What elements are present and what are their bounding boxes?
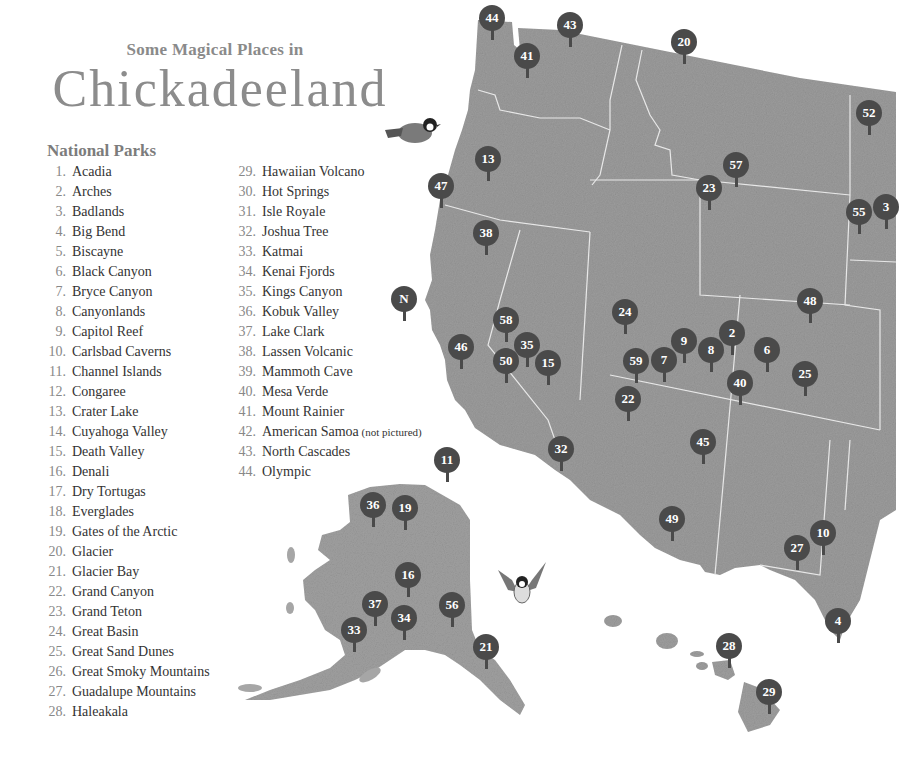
park-marker[interactable]: 32 (548, 436, 574, 462)
park-marker[interactable]: 37 (362, 591, 388, 617)
park-marker-label: 50 (500, 353, 513, 368)
legend-item: 2.Arches (40, 182, 210, 202)
legend-item-name: Kobuk Valley (262, 304, 339, 319)
map-subtitle: Some Magical Places in (30, 40, 400, 60)
compass-north-marker[interactable]: N (391, 286, 417, 312)
park-marker[interactable]: 23 (696, 175, 722, 201)
park-marker[interactable]: 25 (792, 361, 818, 387)
map-pin-stem-icon (403, 629, 406, 640)
legend-item: 5.Biscayne (40, 242, 210, 262)
legend-item-number: 4. (40, 222, 66, 242)
legend-column-2: 29.Hawaiian Volcano30.Hot Springs31.Isle… (230, 162, 422, 482)
park-marker[interactable]: 21 (473, 634, 499, 660)
park-marker[interactable]: 11 (434, 447, 460, 473)
park-marker[interactable]: 2 (719, 320, 745, 346)
park-marker[interactable]: 45 (690, 429, 716, 455)
park-marker[interactable]: 34 (391, 605, 417, 631)
legend-item: 22.Grand Canyon (40, 582, 210, 602)
legend-item-number: 8. (40, 302, 66, 322)
legend-item-name: Grand Teton (72, 604, 142, 619)
park-marker[interactable]: 24 (612, 299, 638, 325)
park-marker[interactable]: 49 (659, 506, 685, 532)
park-marker[interactable]: 3 (873, 194, 899, 220)
legend-item-number: 20. (40, 542, 66, 562)
legend-item-number: 15. (40, 442, 66, 462)
map-pin-stem-icon (485, 658, 488, 669)
park-marker[interactable]: 57 (723, 152, 749, 178)
legend-item-note: (not pictured) (362, 426, 422, 438)
legend-item: 9.Capitol Reef (40, 322, 210, 342)
park-marker[interactable]: 29 (756, 679, 782, 705)
park-marker-label: 48 (804, 293, 817, 308)
map-pin-stem-icon (460, 358, 463, 369)
legend-item: 14.Cuyahoga Valley (40, 422, 210, 442)
park-marker[interactable]: 7 (651, 347, 677, 373)
map-pin-stem-icon (735, 176, 738, 187)
park-marker[interactable]: 8 (698, 337, 724, 363)
legend-item-name: Glacier (72, 544, 113, 559)
park-marker[interactable]: 6 (754, 337, 780, 363)
park-marker[interactable]: 58 (493, 307, 519, 333)
park-marker[interactable]: 41 (514, 43, 540, 69)
legend-item: 38.Lassen Volcanic (230, 342, 422, 362)
legend-item-name: Capitol Reef (72, 324, 143, 339)
park-marker[interactable]: 22 (615, 386, 641, 412)
park-marker-label: 22 (622, 391, 635, 406)
park-marker[interactable]: 55 (846, 199, 872, 225)
legend-item-number: 21. (40, 562, 66, 582)
park-marker[interactable]: 52 (856, 100, 882, 126)
map-pin-stem-icon (505, 331, 508, 342)
legend-item-number: 44. (230, 462, 256, 482)
park-marker[interactable]: 16 (395, 562, 421, 588)
park-marker[interactable]: 44 (479, 5, 505, 31)
legend-item: 11.Channel Islands (40, 362, 210, 382)
park-marker[interactable]: 46 (448, 334, 474, 360)
legend-item-name: Biscayne (72, 244, 123, 259)
park-marker[interactable]: 20 (671, 29, 697, 55)
legend-item-name: Isle Royale (262, 204, 325, 219)
legend-item: 1.Acadia (40, 162, 210, 182)
park-marker[interactable]: 59 (623, 348, 649, 374)
park-marker[interactable]: 9 (671, 328, 697, 354)
map-pin-stem-icon (683, 352, 686, 363)
legend-item: 39.Mammoth Cave (230, 362, 422, 382)
park-marker[interactable]: 43 (557, 12, 583, 38)
park-marker[interactable]: 15 (535, 350, 561, 376)
legend-item-name: Kenai Fjords (262, 264, 335, 279)
legend-item: 8.Canyonlands (40, 302, 210, 322)
map-pin-stem-icon (885, 218, 888, 229)
park-marker[interactable]: 27 (784, 535, 810, 561)
park-marker[interactable]: 13 (475, 146, 501, 172)
legend-item-name: Black Canyon (72, 264, 152, 279)
park-marker[interactable]: 10 (810, 520, 836, 546)
park-marker[interactable]: 28 (716, 633, 742, 659)
legend-item-number: 23. (40, 602, 66, 622)
legend-item-name: Great Sand Dunes (72, 644, 174, 659)
park-marker[interactable]: 56 (439, 592, 465, 618)
park-marker[interactable]: 50 (493, 348, 519, 374)
map-pin-stem-icon (708, 199, 711, 210)
legend-item: 41.Mount Rainier (230, 402, 422, 422)
park-marker[interactable]: 40 (727, 370, 753, 396)
legend-item-name: Canyonlands (72, 304, 145, 319)
legend-item-number: 33. (230, 242, 256, 262)
map-pin-stem-icon (404, 519, 407, 530)
park-marker[interactable]: 48 (797, 288, 823, 314)
park-marker[interactable]: 35 (514, 332, 540, 358)
park-marker-label: 58 (500, 312, 513, 327)
legend-item: 12.Congaree (40, 382, 210, 402)
legend-item: 44.Olympic (230, 462, 422, 482)
park-marker-label: 11 (441, 452, 453, 467)
park-marker[interactable]: 19 (392, 495, 418, 521)
park-marker[interactable]: 38 (473, 220, 499, 246)
legend-item-name: Everglades (72, 504, 134, 519)
legend-item-number: 3. (40, 202, 66, 222)
park-marker[interactable]: 47 (428, 173, 454, 199)
park-marker[interactable]: 4 (825, 608, 851, 634)
legend-item: 21.Glacier Bay (40, 562, 210, 582)
park-marker-label: 9 (681, 333, 688, 348)
park-marker[interactable]: 33 (341, 617, 367, 643)
legend-item-name: Kings Canyon (262, 284, 343, 299)
park-marker[interactable]: 36 (360, 492, 386, 518)
park-marker-label: 28 (723, 638, 736, 653)
